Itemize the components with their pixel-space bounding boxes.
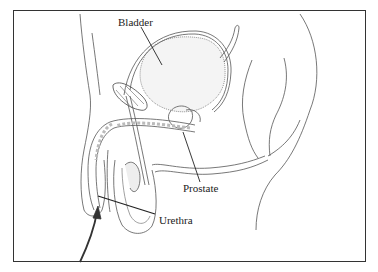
label-prostate: Prostate	[183, 183, 218, 194]
penis-outline	[81, 150, 105, 216]
prostate-leader-line	[183, 132, 200, 182]
scrotum	[114, 160, 156, 233]
label-urethra: Urethra	[159, 215, 193, 226]
abdomen-outline	[80, 14, 91, 150]
urethra-leader-line	[98, 196, 155, 214]
bladder	[124, 25, 239, 112]
anatomy-illustration	[0, 0, 378, 272]
back-outline	[256, 14, 317, 230]
arrow-shaft	[80, 212, 97, 262]
label-bladder: Bladder	[118, 17, 153, 28]
